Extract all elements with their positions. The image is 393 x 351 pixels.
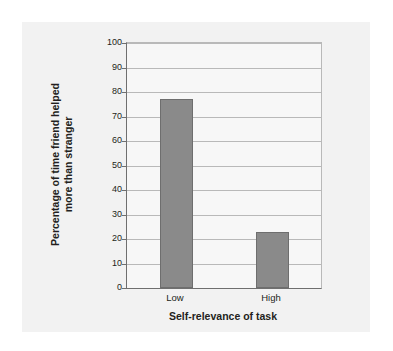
x-axis-title: Self-relevance of task	[126, 310, 320, 322]
gridline	[127, 166, 321, 167]
y-axis-tick-label: 10	[112, 258, 122, 267]
gridline	[127, 141, 321, 142]
y-axis-tick	[122, 239, 127, 240]
plot-area	[126, 42, 322, 289]
gridline	[127, 264, 321, 265]
y-axis-tick	[122, 43, 127, 44]
gridline	[127, 215, 321, 216]
y-axis-tick	[122, 92, 127, 93]
y-axis-tick-label: 50	[112, 160, 122, 169]
x-axis-category-label: Low	[166, 292, 183, 303]
y-axis-title-line: Percentage of time friend helped	[49, 42, 62, 287]
y-axis-tick-label: 100	[107, 38, 122, 47]
y-axis-tick	[122, 215, 127, 216]
y-axis-tick	[122, 264, 127, 265]
y-axis-tick-label: 90	[112, 62, 122, 71]
x-axis-category-label: High	[261, 292, 281, 303]
gridline	[127, 68, 321, 69]
y-axis-tick-label: 70	[112, 111, 122, 120]
y-axis-tick-label: 30	[112, 209, 122, 218]
y-axis-title: Percentage of time friend helpedmore tha…	[42, 42, 82, 287]
gridline	[127, 43, 321, 44]
y-axis-title-line: more than stranger	[62, 42, 75, 287]
y-axis-tick	[122, 117, 127, 118]
y-axis-tick	[122, 166, 127, 167]
y-axis-tick-labels: 1009080706050403020100	[96, 42, 122, 287]
gridline	[127, 92, 321, 93]
gridline	[127, 239, 321, 240]
figure-panel: 1009080706050403020100 LowHigh Self-rele…	[22, 22, 370, 332]
y-axis-tick-label: 0	[117, 283, 122, 292]
bar	[160, 99, 193, 288]
y-axis-tick	[122, 190, 127, 191]
y-axis-tick	[122, 141, 127, 142]
y-axis-title-text: Percentage of time friend helpedmore tha…	[49, 42, 75, 287]
bar	[256, 232, 289, 288]
y-axis-tick-label: 20	[112, 234, 122, 243]
gridline	[127, 117, 321, 118]
y-axis-tick-label: 80	[112, 87, 122, 96]
gridline	[127, 190, 321, 191]
y-axis-tick-label: 40	[112, 185, 122, 194]
y-axis-tick	[122, 288, 127, 289]
y-axis-tick-label: 60	[112, 136, 122, 145]
y-axis-tick	[122, 68, 127, 69]
